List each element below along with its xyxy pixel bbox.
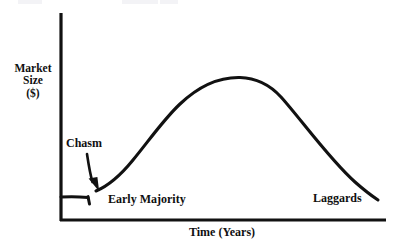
chasm-arrow-head (89, 177, 100, 192)
y-axis-title-line-3: ($) (8, 87, 58, 99)
x-axis-title: Time (Years) (189, 226, 255, 239)
pre-chasm-plateau-line (61, 197, 88, 198)
early-majority-annotation-label: Early Majority (108, 193, 186, 206)
diagram-canvas: Market Size ($) Chasm Early Majority Lag… (0, 0, 398, 251)
y-axis-title-line-1: Market (8, 62, 58, 74)
y-axis-title: Market Size ($) (8, 62, 58, 99)
chasm-drop-line (88, 197, 90, 204)
chasm-arrow-shaft (87, 154, 93, 182)
chasm-annotation-label: Chasm (66, 137, 102, 150)
adoption-curve-line (96, 77, 378, 200)
y-axis-title-line-2: Size (8, 74, 58, 86)
technology-adoption-chart (0, 0, 398, 251)
laggards-annotation-label: Laggards (313, 192, 362, 205)
